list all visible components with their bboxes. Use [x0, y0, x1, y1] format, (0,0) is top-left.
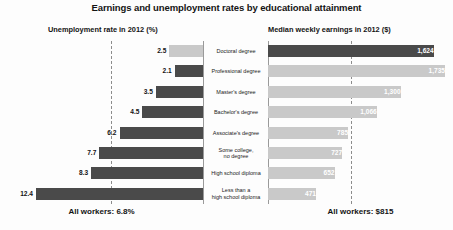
bar-row: 727: [268, 143, 453, 163]
bar-row: 8.3: [0, 163, 203, 183]
bar-value-label: 1,300: [268, 86, 404, 98]
bar-row: 2.1: [0, 61, 203, 81]
bar-unemployment: [36, 188, 203, 200]
category-label: Less than ahigh school diploma: [205, 187, 267, 200]
bar-value-label: 8.3: [48, 167, 88, 179]
bar-row: 6.2: [0, 123, 203, 143]
bar-row: 7.7: [0, 143, 203, 163]
bar-row: 471: [268, 184, 453, 204]
category-label: High school diploma: [205, 170, 267, 176]
bar-row: 2.5: [0, 41, 203, 61]
bar-value-label: 471: [268, 188, 319, 200]
bar-value-label: 1,624: [268, 45, 437, 57]
panel-header-unemployment: Unemployment rate in 2012 (%): [48, 25, 158, 34]
category-label: Associate's degree: [205, 130, 267, 136]
bar-row: 4.5: [0, 102, 203, 122]
panel-earnings: 1,6241,7351,3001,066785727652471: [268, 41, 453, 204]
bar-unemployment: [142, 106, 203, 118]
chart-title: Earnings and unemployment rates by educa…: [0, 2, 453, 13]
bar-value-label: 727: [268, 147, 345, 159]
category-label: Professional degree: [205, 68, 267, 74]
bar-row: 1,624: [268, 41, 453, 61]
bar-unemployment: [99, 147, 203, 159]
category-label: Some college,no degree: [205, 147, 267, 160]
bar-value-label: 652: [268, 167, 338, 179]
bar-row: 12.4: [0, 184, 203, 204]
bar-value-label: 2.5: [126, 45, 166, 57]
bar-unemployment: [175, 65, 203, 77]
bar-value-label: 785: [268, 127, 351, 139]
bar-unemployment: [91, 167, 203, 179]
bar-value-label: 3.5: [113, 86, 153, 98]
bar-unemployment: [169, 45, 203, 57]
footer-all-workers-unemployment: All workers: 6.8%: [0, 207, 203, 216]
bar-value-label: 4.5: [99, 106, 139, 118]
bar-value-label: 6.2: [77, 127, 117, 139]
bar-row: 3.5: [0, 82, 203, 102]
panel-unemployment: 2.52.13.54.56.27.78.312.4: [0, 41, 203, 204]
bar-row: 1,735: [268, 61, 453, 81]
bar-value-label: 2.1: [132, 65, 172, 77]
category-label: Bachelor's degree: [205, 109, 267, 115]
bar-row: 1,066: [268, 102, 453, 122]
bar-value-label: 1,735: [268, 65, 448, 77]
bar-value-label: 7.7: [56, 147, 96, 159]
bar-unemployment: [156, 86, 203, 98]
bar-value-label: 12.4: [0, 188, 33, 200]
footer-all-workers-earnings: All workers: $815: [268, 207, 453, 216]
bar-row: 1,300: [268, 82, 453, 102]
category-label: Doctoral degree: [205, 48, 267, 54]
category-label: Master's degree: [205, 89, 267, 95]
bar-row: 785: [268, 123, 453, 143]
chart-container: Earnings and unemployment rates by educa…: [0, 0, 453, 230]
bar-unemployment: [120, 127, 204, 139]
bar-row: 652: [268, 163, 453, 183]
panel-header-earnings: Median weekly earnings in 2012 ($): [268, 25, 391, 34]
bar-value-label: 1,066: [268, 106, 380, 118]
axis-line-unemployment: [203, 41, 204, 204]
